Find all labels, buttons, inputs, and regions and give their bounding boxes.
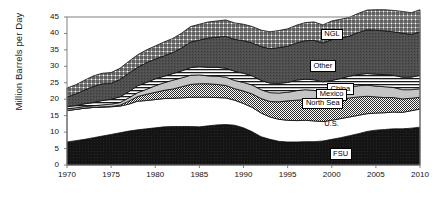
x-tick-label: 2010 — [405, 170, 435, 179]
stacked-area-plot — [0, 0, 445, 198]
x-tick-label: 2000 — [317, 170, 347, 179]
x-tick-label: 1970 — [52, 170, 82, 179]
y-tick-label: 35 — [39, 45, 59, 54]
x-tick-label: 1975 — [96, 170, 126, 179]
y-tick-label: 30 — [39, 61, 59, 70]
y-tick-label: 20 — [39, 94, 59, 103]
y-tick-label: 10 — [39, 127, 59, 136]
y-tick-label: 15 — [39, 111, 59, 120]
x-tick-label: 1985 — [184, 170, 214, 179]
x-tick-label: 2005 — [361, 170, 391, 179]
series-label-u-s-: U.S. — [322, 119, 342, 129]
x-tick-label: 1995 — [273, 170, 303, 179]
y-tick-label: 5 — [39, 144, 59, 153]
series-label-other: Other — [310, 60, 336, 72]
series-label-fsu: FSU — [330, 148, 352, 160]
y-tick-label: 45 — [39, 12, 59, 21]
x-tick-label: 1990 — [229, 170, 259, 179]
y-tick-label: 40 — [39, 28, 59, 37]
y-tick-label: 25 — [39, 78, 59, 87]
y-tick-label: 0 — [39, 160, 59, 169]
series-label-north-sea: North Sea — [302, 98, 343, 110]
chart-figure: Million Barrels per Day — [0, 0, 445, 198]
x-tick-label: 1980 — [140, 170, 170, 179]
series-label-ngl: NGL — [321, 29, 343, 41]
